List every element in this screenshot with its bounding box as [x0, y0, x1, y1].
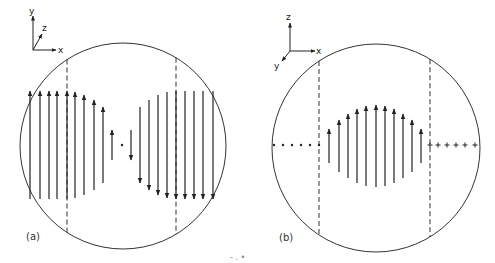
dot-marker-icon — [300, 144, 302, 146]
y-axis-arrow-icon — [282, 51, 290, 61]
dot-marker-icon — [273, 144, 275, 146]
axis-label-y: y — [274, 61, 280, 71]
axis-label-z: z — [42, 23, 47, 33]
null-dot-icon — [121, 144, 123, 146]
boundary-lines-b — [319, 59, 430, 237]
panel-b: z y x (b) — [272, 12, 480, 252]
vector-arrows-b — [329, 105, 421, 187]
dot-marker-icon — [309, 144, 311, 146]
baseline-markers-b — [273, 143, 478, 148]
axis-label-x: x — [58, 45, 64, 55]
axes-triad-b: z y x — [274, 12, 322, 71]
axes-triad-a: y z x — [29, 6, 64, 55]
axis-label-z: z — [286, 12, 291, 22]
figure-canvas: y z x (a) z y x (b) - . • — [0, 0, 495, 263]
z-axis-arrow-icon — [33, 34, 42, 50]
axis-label-y: y — [29, 6, 35, 16]
axis-label-x: x — [316, 46, 322, 56]
dot-marker-icon — [282, 144, 284, 146]
panel-a: y z x (a) — [20, 6, 226, 249]
panel-caption-b: (b) — [279, 232, 293, 243]
dot-marker-icon — [291, 144, 293, 146]
vector-arrows-a — [30, 91, 213, 199]
field-circle-a — [20, 43, 226, 249]
dot-marker-icon — [318, 144, 320, 146]
stray-marks: - . • — [230, 253, 245, 262]
panel-caption-a: (a) — [26, 231, 40, 242]
